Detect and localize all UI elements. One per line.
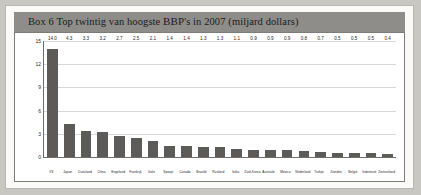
y-axis-tick: 9 — [38, 85, 41, 90]
bar-value-label: 0.5 — [368, 36, 374, 41]
chart-canvas: 03691215 14.04.33.33.22.72.52.11.41.41.3… — [15, 33, 404, 181]
bar-item[interactable]: 1.3 — [195, 41, 212, 157]
bar-value-label: 1.4 — [167, 36, 173, 41]
page-title: Box 6 Top twintig van hoogste BBP's in 2… — [28, 15, 299, 27]
bar-item[interactable]: 0.5 — [363, 41, 380, 157]
bar[interactable]: 2.1 — [148, 141, 159, 157]
bar-item[interactable]: 3.2 — [94, 41, 111, 157]
x-axis-tick-label: Italië — [148, 171, 155, 174]
bar-item[interactable]: 4.3 — [61, 41, 78, 157]
bar-value-label: 0.5 — [351, 36, 357, 41]
bar[interactable]: 1.1 — [231, 149, 242, 158]
bar-value-label: 1.3 — [200, 36, 206, 41]
x-axis-tick-label: Zwitserland — [378, 171, 395, 174]
bar-item[interactable]: 3.3 — [78, 41, 95, 157]
bar-item[interactable]: 0.9 — [279, 41, 296, 157]
bar-series: 14.04.33.33.22.72.52.11.41.41.31.31.10.9… — [44, 41, 396, 157]
bar-value-label: 14.0 — [48, 36, 57, 41]
bar-value-label: 1.1 — [234, 36, 240, 41]
bar-item[interactable]: 2.1 — [145, 41, 162, 157]
title-suffix: 's in 2007 (miljard dollars) — [184, 16, 298, 27]
x-axis-tick-label: VS — [49, 171, 53, 174]
bar-item[interactable]: 0.4 — [379, 41, 396, 157]
bar-value-label: 2.5 — [133, 36, 139, 41]
bar-value-label: 0.9 — [250, 36, 256, 41]
y-axis-tick: 6 — [38, 108, 41, 113]
x-axis-tick-label: Rusland — [213, 171, 225, 174]
title-prefix: Box 6 Top twintig van hoogste — [28, 16, 163, 27]
y-axis-tick: 12 — [35, 62, 41, 67]
bar-item[interactable]: 2.7 — [111, 41, 128, 157]
bar-item[interactable]: 1.4 — [178, 41, 195, 157]
x-axis-tick-label: België — [348, 171, 357, 174]
bar-value-label: 1.4 — [183, 36, 189, 41]
x-axis-tick: India — [227, 159, 244, 177]
x-axis-tick: Zuid-Korea — [244, 159, 261, 177]
x-axis-tick-label: Zuid-Korea — [244, 171, 260, 174]
x-axis-tick: China — [93, 159, 110, 177]
bar-item[interactable]: 0.7 — [312, 41, 329, 157]
bar[interactable]: 1.3 — [215, 147, 226, 157]
bar-value-label: 3.3 — [83, 36, 89, 41]
x-axis-tick-label: Canada — [180, 171, 191, 174]
x-axis-tick: Italië — [143, 159, 160, 177]
bar[interactable]: 2.7 — [114, 136, 125, 157]
bar[interactable]: 3.3 — [81, 131, 92, 157]
x-axis-tick: VS — [43, 159, 60, 177]
chart-frame: 03691215 14.04.33.33.22.72.52.11.41.41.3… — [14, 32, 405, 182]
x-axis-tick: Frankrijk — [127, 159, 144, 177]
bar-item[interactable]: 0.5 — [346, 41, 363, 157]
y-axis-tick: 15 — [35, 39, 41, 44]
y-axis: 03691215 — [29, 41, 41, 157]
x-axis-tick: Mexico — [277, 159, 294, 177]
bar[interactable]: 1.4 — [164, 146, 175, 157]
bar-value-label: 0.7 — [317, 36, 323, 41]
bar[interactable]: 0.5 — [349, 153, 360, 157]
x-axis-tick: Engeland — [110, 159, 127, 177]
bar-value-label: 0.4 — [384, 36, 390, 41]
bar[interactable]: 0.8 — [299, 151, 310, 157]
bar[interactable]: 0.9 — [248, 150, 259, 157]
x-axis-tick-label: Mexico — [281, 171, 291, 174]
bar-value-label: 2.7 — [116, 36, 122, 41]
bar-value-label: 0.9 — [284, 36, 290, 41]
x-axis-tick: Australië — [261, 159, 278, 177]
bar[interactable]: 1.3 — [198, 147, 209, 157]
x-axis-tick: Zwitserland — [378, 159, 395, 177]
bar-item[interactable]: 1.4 — [161, 41, 178, 157]
x-axis-tick-label: Australië — [263, 171, 276, 174]
x-axis-tick: Zweden — [328, 159, 345, 177]
bar-item[interactable]: 0.9 — [262, 41, 279, 157]
x-axis-tick: België — [344, 159, 361, 177]
x-axis-tick-label: Japan — [64, 171, 73, 174]
bar-value-label: 4.3 — [66, 36, 72, 41]
bar[interactable]: 0.5 — [332, 153, 343, 157]
bar-value-label: 2.1 — [150, 36, 156, 41]
x-axis-tick-label: Spanje — [163, 171, 173, 174]
bar[interactable]: 14.0 — [47, 49, 58, 157]
x-axis-tick-label: Engeland — [111, 171, 125, 174]
bar-item[interactable]: 0.9 — [245, 41, 262, 157]
x-axis-tick-label: Indonesië — [362, 171, 376, 174]
bar[interactable]: 0.4 — [382, 154, 393, 157]
bar[interactable]: 4.3 — [64, 124, 75, 157]
x-axis-tick: Indonesië — [361, 159, 378, 177]
bar-value-label: 1.3 — [217, 36, 223, 41]
bar[interactable]: 1.4 — [181, 146, 192, 157]
bar-item[interactable]: 1.1 — [228, 41, 245, 157]
bar[interactable]: 0.5 — [366, 153, 377, 157]
bar-item[interactable]: 0.5 — [329, 41, 346, 157]
bar[interactable]: 2.5 — [131, 138, 142, 157]
bar[interactable]: 0.7 — [315, 152, 326, 157]
x-axis-tick-label: Frankrijk — [129, 171, 141, 174]
bar[interactable]: 0.9 — [265, 150, 276, 157]
bar-value-label: 0.5 — [334, 36, 340, 41]
box-title-bar: Box 6 Top twintig van hoogste BBP's in 2… — [14, 12, 405, 32]
bar-item[interactable]: 2.5 — [128, 41, 145, 157]
bar-item[interactable]: 0.8 — [295, 41, 312, 157]
bar-item[interactable]: 1.3 — [212, 41, 229, 157]
bar[interactable]: 0.9 — [282, 150, 293, 157]
bar-item[interactable]: 14.0 — [44, 41, 61, 157]
bar[interactable]: 3.2 — [97, 132, 108, 157]
x-axis-tick: Rusland — [210, 159, 227, 177]
